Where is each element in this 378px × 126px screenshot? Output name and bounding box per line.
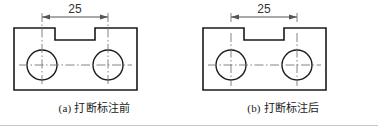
figure-caption-a: (a) 打断标注前 (0, 99, 189, 115)
part-outline (14, 28, 137, 90)
arrowhead-right (100, 15, 108, 20)
arrowhead-right (289, 15, 297, 20)
figure-after-break: 25 (b) 打断标注后 (189, 0, 378, 126)
engineering-drawing-a: 25 (0, 0, 189, 100)
figure-caption-b: (b) 打断标注后 (189, 99, 378, 115)
part-outline (203, 28, 326, 90)
dimension-text: 25 (68, 2, 82, 16)
dimension-text: 25 (257, 2, 271, 16)
arrowhead-left (42, 15, 50, 20)
bottom-divider (0, 125, 378, 126)
figure-before-break: 25 (a) 打断标注前 (0, 0, 189, 126)
engineering-drawing-b: 25 (189, 0, 378, 100)
arrowhead-left (231, 15, 239, 20)
